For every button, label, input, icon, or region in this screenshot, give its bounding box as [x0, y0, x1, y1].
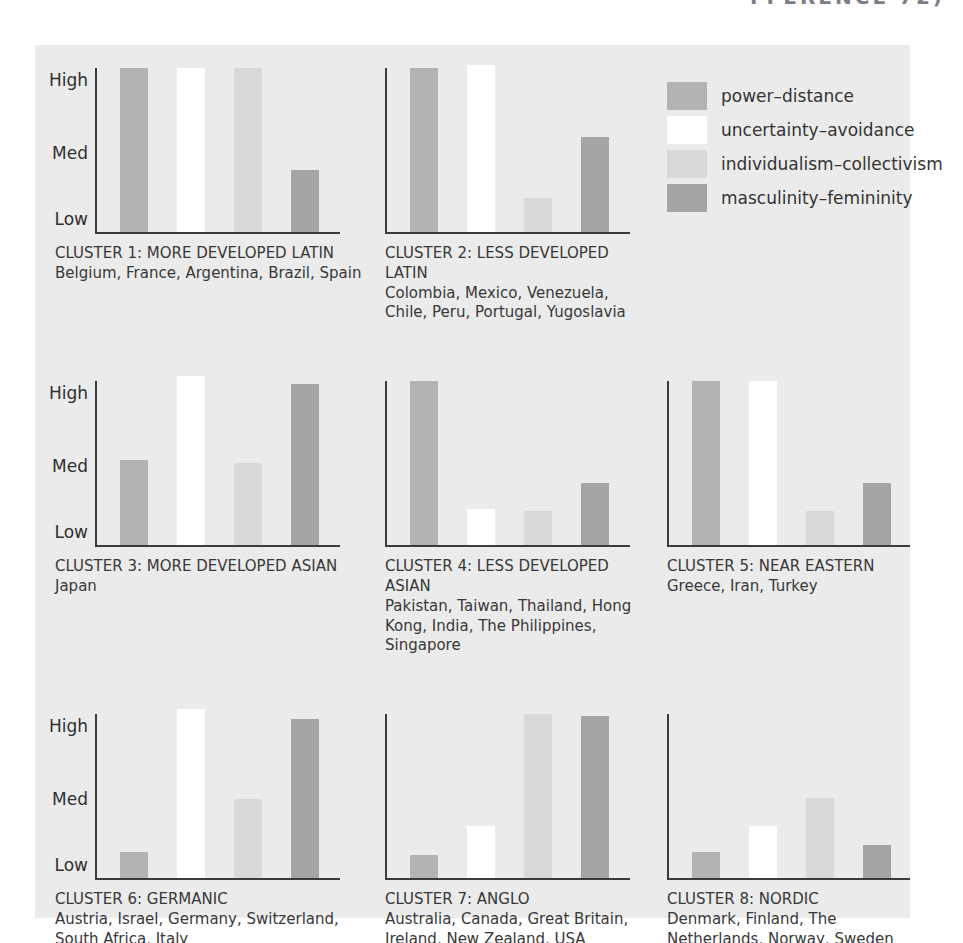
legend-label: masculinity–femininity	[721, 188, 913, 208]
cluster-countries: Colombia, Mexico, Venezuela, Chile, Peru…	[385, 284, 653, 324]
cluster-caption: CLUSTER 6: GERMANIC Austria, Israel, Ger…	[55, 890, 385, 943]
power-distance-bar	[692, 381, 720, 545]
cluster-caption: CLUSTER 3: MORE DEVELOPED ASIAN Japan	[55, 557, 385, 619]
y-tick-med: Med	[52, 458, 88, 475]
uncertainty-avoidance-bar	[177, 709, 205, 878]
cluster-title: CLUSTER 5: NEAR EASTERN	[667, 557, 896, 577]
legend-item: uncertainty–avoidance	[667, 116, 910, 144]
y-tick-high: High	[49, 72, 88, 89]
bar-chart	[385, 714, 667, 880]
masculinity-femininity-bar	[291, 170, 319, 232]
uncertainty-avoidance-bar	[177, 376, 205, 545]
individualism-collectivism-bar	[234, 463, 262, 545]
y-tick-low: Low	[55, 857, 88, 874]
cluster-title: CLUSTER 2: LESS DEVELOPED LATIN	[385, 244, 653, 284]
individualism-collectivism-bar	[524, 198, 552, 232]
legend-swatch-uncertainty-avoidance	[667, 116, 707, 144]
power-distance-bar	[120, 68, 148, 232]
cluster-1-chart: High Med Low CLUSTER 1: MORE DEVELOPED L…	[55, 68, 385, 323]
cluster-3-chart: High Med Low CLUSTER 3: MORE DEVELOPED A…	[55, 381, 385, 656]
masculinity-femininity-bar	[581, 483, 609, 545]
y-tick-med: Med	[52, 145, 88, 162]
cluster-countries: Australia, Canada, Great Britain, Irelan…	[385, 910, 653, 943]
legend-item: individualism–collectivism	[667, 150, 910, 178]
masculinity-femininity-bar	[291, 384, 319, 545]
cluster-title: CLUSTER 7: ANGLO	[385, 890, 653, 910]
power-distance-bar	[410, 855, 438, 878]
cluster-countries: Greece, Iran, Turkey	[667, 577, 896, 597]
cluster-caption: CLUSTER 1: MORE DEVELOPED LATIN Belgium,…	[55, 244, 385, 306]
cluster-countries: Denmark, Finland, The Netherlands, Norwa…	[667, 910, 896, 943]
y-tick-med: Med	[52, 791, 88, 808]
individualism-collectivism-bar	[524, 714, 552, 878]
cluster-title: CLUSTER 6: GERMANIC	[55, 890, 371, 910]
bar-chart	[385, 381, 667, 547]
legend-label: uncertainty–avoidance	[721, 120, 915, 140]
y-tick-low: Low	[55, 524, 88, 541]
cluster-countries: Austria, Israel, Germany, Switzerland, S…	[55, 910, 371, 943]
masculinity-femininity-bar	[863, 845, 891, 878]
bar-chart	[385, 68, 667, 234]
power-distance-bar	[120, 852, 148, 878]
masculinity-femininity-bar	[291, 719, 319, 878]
uncertainty-avoidance-bar	[467, 509, 495, 545]
legend-swatch-masculinity-femininity	[667, 184, 707, 212]
uncertainty-avoidance-bar	[467, 65, 495, 232]
cluster-caption: CLUSTER 5: NEAR EASTERN Greece, Iran, Tu…	[667, 557, 910, 619]
individualism-collectivism-bar	[524, 511, 552, 545]
bar-chart	[667, 381, 910, 547]
individualism-collectivism-bar	[806, 798, 834, 878]
uncertainty-avoidance-bar	[467, 826, 495, 878]
cluster-title: CLUSTER 8: NORDIC	[667, 890, 896, 910]
plot-area	[667, 714, 910, 880]
y-axis-labels: High Med Low	[55, 68, 95, 234]
plot-area	[95, 381, 340, 547]
cluster-4-chart: CLUSTER 4: LESS DEVELOPED ASIAN Pakistan…	[385, 381, 667, 656]
legend-item: masculinity–femininity	[667, 184, 910, 212]
legend-swatch-individualism-collectivism	[667, 150, 707, 178]
power-distance-bar	[692, 852, 720, 878]
legend-item: power–distance	[667, 82, 910, 110]
plot-area	[385, 68, 630, 234]
legend-label: power–distance	[721, 86, 854, 106]
cluster-countries: Belgium, France, Argentina, Brazil, Spai…	[55, 264, 371, 284]
bar-chart: High Med Low	[55, 68, 385, 234]
plot-area	[95, 68, 340, 234]
plot-area	[95, 714, 340, 880]
y-tick-low: Low	[55, 211, 88, 228]
cluster-5-chart: CLUSTER 5: NEAR EASTERN Greece, Iran, Tu…	[667, 381, 910, 656]
cluster-2-chart: CLUSTER 2: LESS DEVELOPED LATIN Colombia…	[385, 68, 667, 323]
cluster-title: CLUSTER 1: MORE DEVELOPED LATIN	[55, 244, 371, 264]
page-header-fragment: FFERENCE 72)	[750, 0, 945, 9]
plot-area	[385, 714, 630, 880]
y-tick-high: High	[49, 385, 88, 402]
plot-area	[385, 381, 630, 547]
bar-chart	[667, 714, 910, 880]
figure-panel: High Med Low CLUSTER 1: MORE DEVELOPED L…	[35, 45, 910, 918]
y-tick-high: High	[49, 718, 88, 735]
masculinity-femininity-bar	[581, 716, 609, 878]
cluster-countries: Japan	[55, 577, 371, 597]
power-distance-bar	[410, 381, 438, 545]
uncertainty-avoidance-bar	[749, 381, 777, 545]
plot-area	[667, 381, 910, 547]
cluster-8-chart: CLUSTER 8: NORDIC Denmark, Finland, The …	[667, 714, 910, 943]
cluster-caption: CLUSTER 7: ANGLO Australia, Canada, Grea…	[385, 890, 667, 943]
masculinity-femininity-bar	[581, 137, 609, 232]
individualism-collectivism-bar	[234, 799, 262, 878]
power-distance-bar	[410, 68, 438, 232]
cluster-caption: CLUSTER 4: LESS DEVELOPED ASIAN Pakistan…	[385, 557, 667, 656]
power-distance-bar	[120, 460, 148, 545]
cluster-charts-grid: High Med Low CLUSTER 1: MORE DEVELOPED L…	[55, 68, 910, 943]
y-axis-labels: High Med Low	[55, 714, 95, 880]
cluster-6-chart: High Med Low CLUSTER 6: GERMANIC Austria…	[55, 714, 385, 943]
cluster-countries: Pakistan, Taiwan, Thailand, Hong Kong, I…	[385, 597, 653, 656]
legend: power–distance uncertainty–avoidance ind…	[667, 68, 910, 323]
cluster-7-chart: CLUSTER 7: ANGLO Australia, Canada, Grea…	[385, 714, 667, 943]
uncertainty-avoidance-bar	[749, 826, 777, 878]
uncertainty-avoidance-bar	[177, 68, 205, 232]
bar-chart: High Med Low	[55, 714, 385, 880]
individualism-collectivism-bar	[234, 68, 262, 232]
y-axis-labels: High Med Low	[55, 381, 95, 547]
cluster-caption: CLUSTER 8: NORDIC Denmark, Finland, The …	[667, 890, 910, 943]
